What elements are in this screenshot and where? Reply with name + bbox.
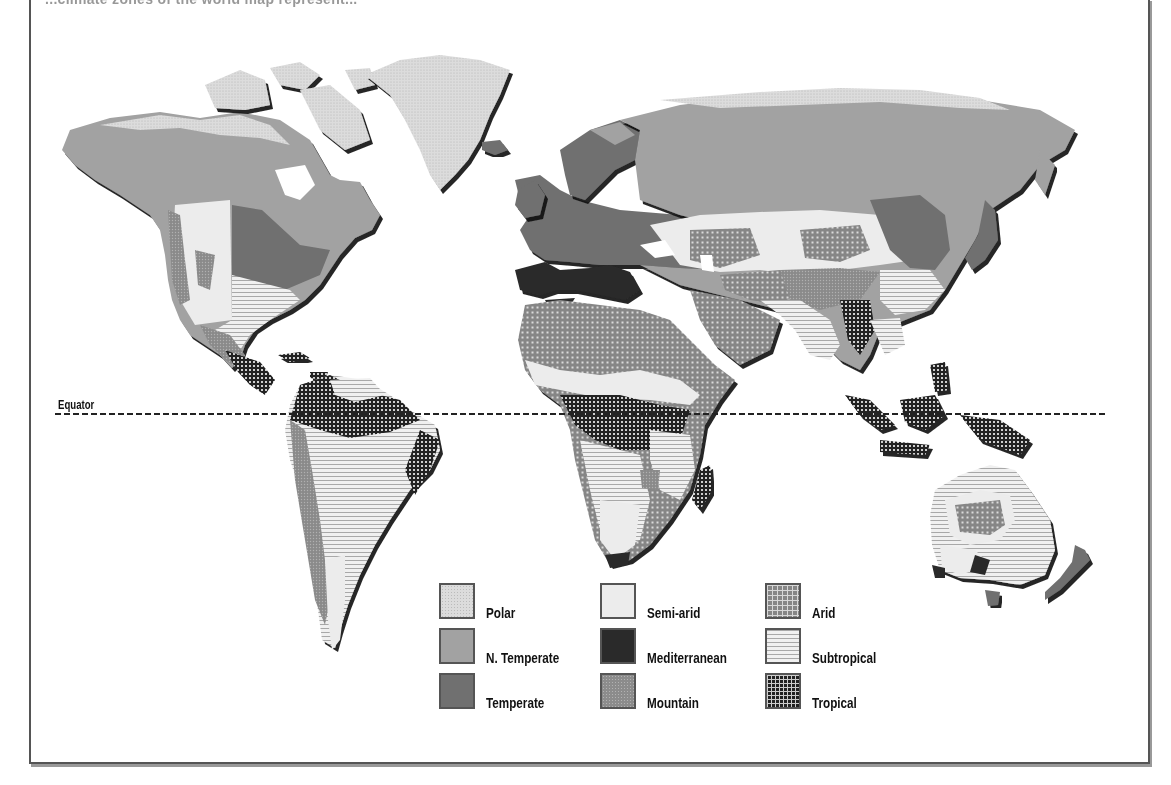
legend-label: Mountain bbox=[647, 694, 699, 711]
legend-label: Subtropical bbox=[812, 649, 876, 666]
legend-label: Mediterranean bbox=[647, 649, 727, 666]
legend-item-semi-arid: Semi-arid bbox=[600, 583, 715, 619]
legend-label: Semi-arid bbox=[647, 604, 700, 621]
legend-item-temperate: Temperate bbox=[439, 673, 561, 709]
equator-label: Equator bbox=[58, 398, 94, 412]
world-climate-map bbox=[0, 0, 1171, 785]
polar-swatch bbox=[439, 583, 475, 619]
legend-label: Temperate bbox=[486, 694, 544, 711]
legend-label: Arid bbox=[812, 604, 835, 621]
semi-arid-swatch bbox=[600, 583, 636, 619]
legend-item-tropical: Tropical bbox=[765, 673, 870, 709]
legend-item-subtropical: Subtropical bbox=[765, 628, 895, 664]
tropical-swatch bbox=[765, 673, 801, 709]
legend-item-mediterranean: Mediterranean bbox=[600, 628, 750, 664]
mediterranean-swatch bbox=[600, 628, 636, 664]
legend-label: Polar bbox=[486, 604, 515, 621]
mountain-swatch bbox=[600, 673, 636, 709]
legend-item-polar: Polar bbox=[439, 583, 524, 619]
subtropical-swatch bbox=[765, 628, 801, 664]
legend-item-arid: Arid bbox=[765, 583, 842, 619]
n-temperate-swatch bbox=[439, 628, 475, 664]
temperate-swatch bbox=[439, 673, 475, 709]
arid-swatch bbox=[765, 583, 801, 619]
legend-label: N. Temperate bbox=[486, 649, 559, 666]
legend-item-mountain: Mountain bbox=[600, 673, 714, 709]
legend-label: Tropical bbox=[812, 694, 857, 711]
legend-item-n-temperate: N. Temperate bbox=[439, 628, 580, 664]
